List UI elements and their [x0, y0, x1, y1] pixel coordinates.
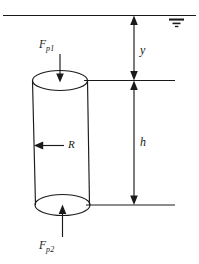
upward-pressure-force-arrow: [59, 205, 67, 238]
downward-pressure-force-arrow: [56, 54, 64, 83]
height-dimension-label: h: [140, 136, 146, 148]
radius-indicator-arrow: [34, 142, 64, 150]
depth-dimension-label: y: [140, 44, 145, 56]
cylinder-right-wall: [88, 81, 90, 206]
height-dimension-line: [130, 81, 138, 206]
water-level-symbol: [169, 19, 184, 28]
cylinder-left-wall: [33, 81, 36, 206]
force-label-bottom-subscript: p2: [46, 245, 54, 254]
figure-container: Fp1 Fp2 y h R: [0, 0, 199, 264]
depth-dimension-line: [130, 16, 138, 81]
force-label-bottom: Fp2: [39, 240, 54, 252]
radius-label: R: [68, 139, 75, 150]
force-label-bottom-symbol: F: [39, 239, 46, 251]
force-label-top-symbol: F: [39, 38, 46, 50]
force-label-top: Fp1: [39, 39, 54, 51]
diagram-canvas: [0, 0, 199, 264]
force-label-top-subscript: p1: [46, 44, 54, 53]
